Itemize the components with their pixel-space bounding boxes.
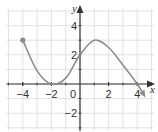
y-tick-label: −2 <box>64 107 77 119</box>
y-tick-label: 4 <box>71 20 77 32</box>
x-tick-label: −4 <box>17 88 30 100</box>
axes <box>7 5 156 131</box>
x-tick-label: 2 <box>106 88 112 100</box>
function-graph: −4−202442−2 x y <box>0 0 158 132</box>
x-tick-label: −2 <box>45 88 58 100</box>
x-tick-label: 4 <box>134 88 140 100</box>
x-axis-label: x <box>149 83 155 95</box>
y-axis-arrow-icon <box>77 5 84 13</box>
y-axis-label: y <box>71 2 77 14</box>
function-curve <box>23 40 145 96</box>
start-point-dot <box>20 38 25 43</box>
x-tick-label: 0 <box>70 88 76 100</box>
y-tick-label: 2 <box>71 49 77 61</box>
